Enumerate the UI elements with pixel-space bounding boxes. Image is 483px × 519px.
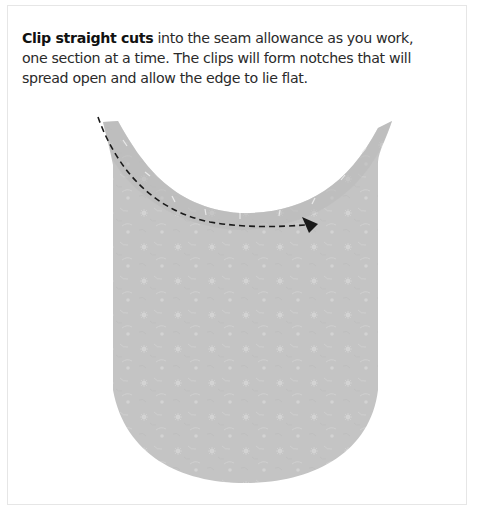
fabric-illustration xyxy=(0,0,483,519)
